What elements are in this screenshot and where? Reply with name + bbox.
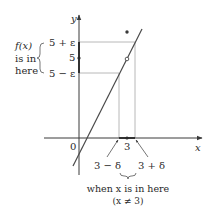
bottom-annotation-line1: when x is in here (87, 183, 170, 194)
y-axis-label: y (70, 13, 77, 24)
left-annotation-line2: is in (15, 53, 37, 64)
y-tick-lower: 5 − ε (49, 68, 75, 79)
epsilon-delta-diagram: y x 0 5 + ε 5 5 − ε f(x) is in here 3 3 … (0, 0, 214, 207)
left-annotation-line3: here (15, 65, 38, 76)
x-tick-center: 3 (124, 141, 130, 152)
x-tick-right: 3 + δ (138, 160, 165, 171)
right-delta-pointer (136, 140, 148, 157)
function-graph-line (73, 29, 142, 166)
y-tick-dot-5 (77, 56, 80, 59)
y-tick-upper: 5 + ε (49, 37, 75, 48)
x-tick-left: 3 − δ (94, 160, 121, 171)
y-tick-center: 5 (69, 52, 75, 63)
x-tick-dot-3 (125, 136, 128, 139)
hollow-point-icon (125, 57, 129, 61)
left-annotation-line1: f(x) (14, 40, 32, 51)
bottom-brace-icon (120, 173, 136, 179)
bottom-annotation-line2: (x ≠ 3) (112, 196, 143, 206)
origin-label: 0 (70, 141, 76, 152)
left-delta-pointer (107, 140, 118, 157)
filled-point-icon (125, 30, 128, 33)
x-axis-label: x (195, 142, 201, 153)
